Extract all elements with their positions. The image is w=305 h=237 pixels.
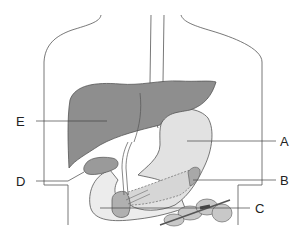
label-B: B — [280, 174, 289, 187]
pancreas-head — [112, 191, 130, 217]
pancreas-tail — [188, 167, 200, 186]
leader-line-D-2 — [68, 172, 84, 181]
label-C: C — [255, 202, 264, 215]
label-A: A — [280, 135, 289, 148]
gallbladder — [84, 157, 118, 174]
label-D: D — [16, 175, 25, 188]
bile-duct-2 — [126, 142, 132, 195]
label-E: E — [16, 115, 25, 128]
